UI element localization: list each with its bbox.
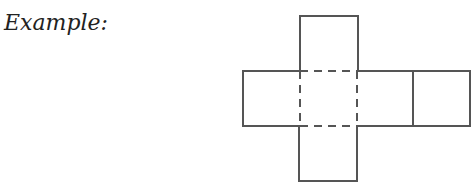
cube-net-diagram (0, 0, 476, 189)
solid-outline (243, 16, 470, 181)
